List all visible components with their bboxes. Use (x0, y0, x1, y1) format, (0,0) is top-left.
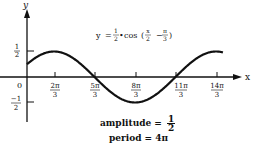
svg-text:π: π (163, 27, 167, 34)
svg-text:3: 3 (179, 91, 183, 99)
period-value: 4π (155, 133, 168, 143)
equation-label: y = 1 2 • cos ( x 2 − π 3 ) (95, 27, 172, 42)
svg-text:2: 2 (146, 35, 150, 42)
x-ticks (55, 72, 217, 77)
svg-text:−1: −1 (11, 95, 21, 103)
svg-text:2: 2 (15, 51, 19, 59)
svg-text:−: − (156, 31, 163, 40)
x-tick-labels: 2π 3 5π 3 8π 3 11π 3 14π 3 (50, 82, 224, 99)
period-annotation: period = 4π (109, 133, 168, 143)
y-tick-label-half: 1 2 (14, 43, 20, 59)
svg-text:(: ( (141, 31, 144, 40)
svg-text:11π: 11π (174, 82, 188, 90)
x-axis-label: x (245, 72, 250, 82)
svg-text:2π: 2π (50, 82, 59, 90)
y-tick-label-neg-half: −1 2 (11, 95, 21, 112)
svg-text:2: 2 (114, 35, 118, 42)
origin-label: 0 (17, 81, 22, 90)
x-axis-arrow-icon (233, 74, 242, 80)
svg-text:cos: cos (124, 31, 137, 40)
y-axis-arrow-icon (24, 9, 30, 18)
svg-text:=: = (105, 31, 112, 40)
svg-text:3: 3 (93, 91, 97, 99)
amplitude-label: amplitude = (100, 118, 162, 128)
svg-text:5π: 5π (90, 82, 99, 90)
svg-text:3: 3 (134, 91, 138, 99)
svg-text:•: • (119, 31, 124, 40)
svg-text:2: 2 (14, 104, 18, 112)
amplitude-annotation: amplitude = 1 2 (100, 115, 175, 132)
svg-text:y: y (95, 31, 101, 40)
amplitude-fraction: 1 2 (167, 115, 175, 132)
svg-text:14π: 14π (210, 82, 224, 90)
svg-text:): ) (169, 31, 172, 40)
svg-text:1: 1 (114, 27, 118, 34)
svg-text:3: 3 (163, 35, 167, 42)
period-label: period = (109, 133, 152, 143)
svg-text:3: 3 (215, 91, 219, 99)
svg-text:8π: 8π (131, 82, 140, 90)
svg-text:x: x (146, 27, 150, 34)
svg-text:3: 3 (53, 91, 57, 99)
y-axis-label: y (22, 0, 29, 10)
svg-text:1: 1 (15, 43, 19, 51)
